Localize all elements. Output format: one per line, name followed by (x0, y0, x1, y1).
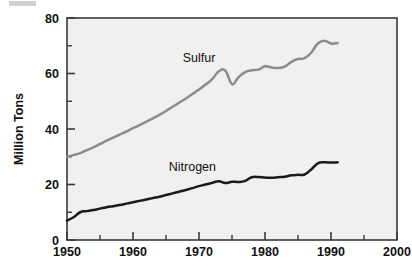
x-axis-tick-labels: 195019601970198019902000 (53, 245, 411, 259)
x-tick-label: 1970 (185, 245, 213, 259)
y-tick-label: 80 (45, 12, 59, 26)
y-axis-tick-labels: 020406080 (45, 12, 59, 248)
x-tick-label: 1990 (317, 245, 345, 259)
y-tick-label: 60 (45, 67, 59, 81)
y-axis-title: Million Tons (12, 93, 26, 165)
line-chart: 195019601970198019902000 020406080 Sulfu… (0, 0, 412, 273)
series-label-nitrogen: Nitrogen (169, 160, 216, 174)
y-tick-label: 20 (45, 178, 59, 192)
y-tick-label: 40 (45, 123, 59, 137)
chart-figure: 195019601970198019902000 020406080 Sulfu… (0, 0, 412, 273)
x-tick-label: 1980 (251, 245, 279, 259)
series-label-sulfur: Sulfur (183, 51, 216, 65)
x-tick-label: 1960 (119, 245, 147, 259)
y-tick-label: 0 (52, 234, 59, 248)
y-axis-title-group: Million Tons (12, 93, 26, 165)
x-tick-label: 2000 (383, 245, 411, 259)
